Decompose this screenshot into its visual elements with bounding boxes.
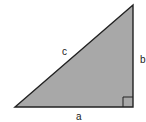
- label-leg-b: b: [140, 54, 146, 65]
- right-triangle-diagram: c b a: [0, 0, 146, 122]
- triangle-shape: [15, 5, 133, 107]
- label-hypotenuse-c: c: [62, 46, 67, 57]
- label-leg-a: a: [76, 111, 82, 122]
